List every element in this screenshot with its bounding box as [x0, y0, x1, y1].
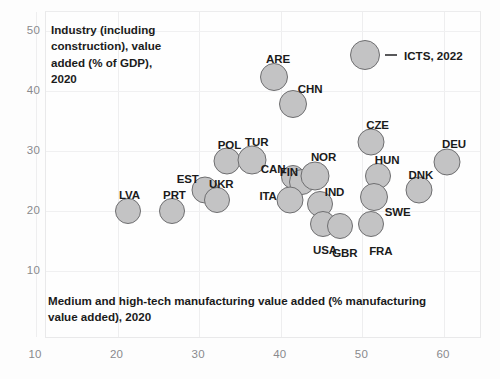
data-point-label: SWE [385, 206, 411, 218]
x-axis-tick-label: 10 [28, 348, 41, 360]
data-point-label: IND [325, 186, 345, 198]
data-point-bubble [159, 198, 185, 224]
x-axis-tick-label: 40 [273, 348, 286, 360]
y-axis-tick-label: 50 [6, 24, 40, 36]
gridline-vertical [199, 12, 200, 337]
gridline-horizontal [46, 91, 480, 92]
y-axis-tick-label: 20 [6, 204, 40, 216]
data-point-bubble [360, 183, 388, 211]
data-point-label: FRA [369, 245, 392, 257]
y-axis-tick-label: 30 [6, 144, 40, 156]
data-point-label: TUR [245, 136, 268, 148]
data-point-label: ITA [259, 190, 276, 202]
data-point-label: DEU [442, 138, 466, 150]
data-point-label: NOR [311, 151, 336, 163]
y-axis-ticks: 1020304050 [0, 0, 40, 379]
x-axis-tick-label: 60 [436, 348, 449, 360]
data-point-bubble [358, 128, 385, 155]
y-axis-title: Industry (including construction), value… [51, 22, 181, 88]
data-point-bubble [213, 147, 240, 174]
data-point-bubble [327, 213, 353, 239]
data-point-label: UKR [209, 178, 234, 190]
data-point-label: ARE [266, 53, 290, 65]
legend-dash-icon [385, 54, 397, 56]
data-point-label: LVA [119, 189, 140, 201]
x-axis-title: Medium and high-tech manufacturing value… [48, 293, 448, 326]
data-point-label: HUN [375, 154, 400, 166]
data-point-label: CZE [366, 119, 389, 131]
data-point-label: GBR [332, 247, 357, 259]
x-axis-tick-label: 20 [110, 348, 123, 360]
gridline-horizontal [46, 271, 480, 272]
data-point-label: PRT [163, 189, 186, 201]
data-point-bubble [434, 149, 461, 176]
data-point-label: EST [177, 173, 199, 185]
data-point-label: DNK [409, 169, 434, 181]
y-axis-tick-label: 40 [6, 84, 40, 96]
legend-marker-icon [350, 40, 380, 70]
x-axis-tick-label: 50 [355, 348, 368, 360]
y-axis-tick-label: 10 [6, 264, 40, 276]
data-point-bubble [204, 187, 230, 213]
scatter-chart: 1020304050 102030405060 LVAPRTESTUKRPOLT… [0, 0, 500, 379]
legend-label: ICTS, 2022 [404, 49, 463, 62]
data-point-label: FIN [280, 166, 298, 178]
data-point-bubble [358, 211, 384, 237]
data-point-bubble [260, 63, 288, 91]
data-point-label: POL [218, 139, 241, 151]
data-point-bubble [115, 198, 141, 224]
legend: ICTS, 2022 [350, 42, 463, 68]
data-point-label: CHN [298, 83, 323, 95]
gridline-horizontal [46, 211, 480, 212]
data-point-bubble [277, 187, 304, 214]
x-axis-tick-label: 30 [192, 348, 205, 360]
